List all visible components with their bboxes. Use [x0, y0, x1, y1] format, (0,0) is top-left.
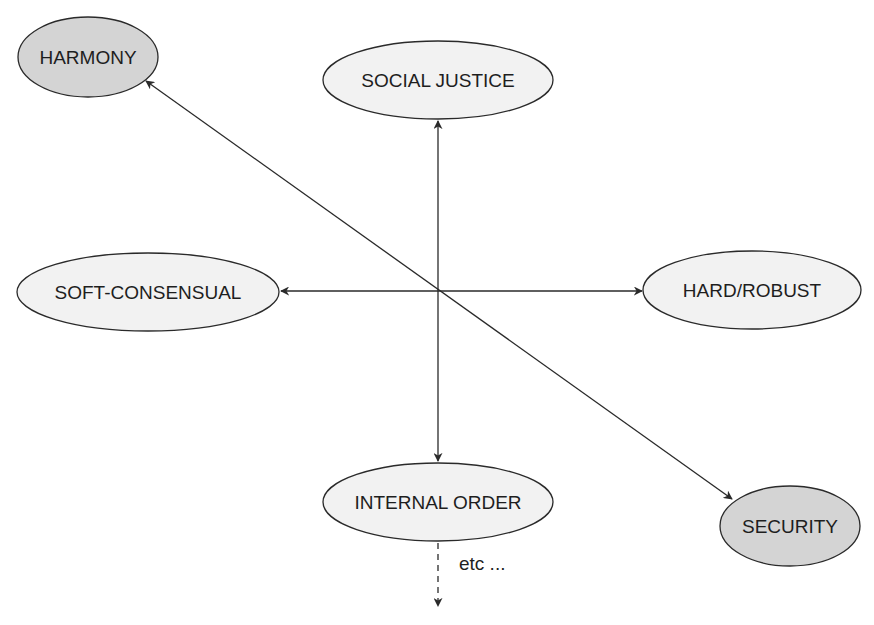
node-security: SECURITY — [720, 486, 860, 566]
node-harmony-label: HARMONY — [39, 47, 136, 68]
node-social-justice: SOCIAL JUSTICE — [323, 41, 553, 119]
node-soft-consensual: SOFT-CONSENSUAL — [17, 253, 279, 331]
node-social-justice-label: SOCIAL JUSTICE — [361, 70, 514, 91]
continuation-label: etc ... — [459, 553, 505, 574]
node-security-label: SECURITY — [742, 516, 838, 537]
values-diagram: HARMONY SOCIAL JUSTICE SOFT-CONSENSUAL H… — [0, 0, 874, 625]
node-internal-order: INTERNAL ORDER — [323, 463, 553, 541]
node-soft-consensual-label: SOFT-CONSENSUAL — [55, 282, 242, 303]
node-hard-robust-label: HARD/ROBUST — [683, 280, 822, 301]
node-internal-order-label: INTERNAL ORDER — [354, 492, 521, 513]
node-harmony: HARMONY — [18, 17, 158, 97]
node-hard-robust: HARD/ROBUST — [643, 251, 861, 329]
